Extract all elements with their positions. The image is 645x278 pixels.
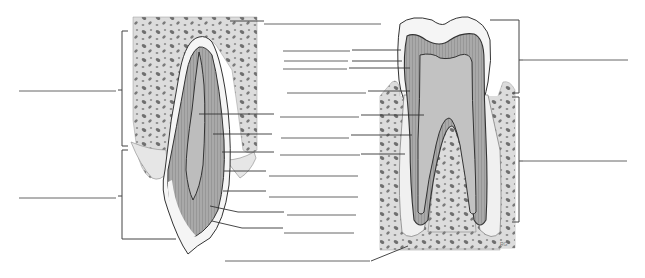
diagram-canvas: RG bbox=[0, 0, 645, 278]
right-tooth-illustration: RG bbox=[380, 17, 515, 250]
left-tooth-illustration bbox=[131, 17, 257, 254]
artist-signature: RG bbox=[500, 241, 508, 247]
tooth-anatomy-diagram: RG bbox=[0, 0, 645, 278]
blank-label-lines[interactable] bbox=[19, 24, 628, 261]
left-upper-bracket bbox=[122, 31, 128, 146]
